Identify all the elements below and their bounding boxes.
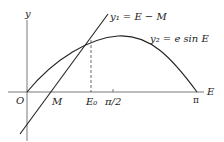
e0-tick-label: E₀ — [85, 96, 97, 107]
y-axis-label: y — [24, 8, 31, 19]
sine-curve — [27, 36, 197, 92]
curve-y2-label: y₂ = e sin E — [149, 33, 209, 44]
half-pi-tick-label: π/2 — [104, 96, 121, 107]
line-y1-label: y₁ = E − M — [109, 11, 167, 22]
x-axis-label: E — [206, 86, 215, 97]
kepler-diagram: y E O y₁ = E − M y₂ = e sin E M E₀ π/2 π — [0, 0, 224, 142]
origin-label: O — [16, 95, 24, 106]
line-y1 — [20, 14, 108, 134]
pi-tick-label: π — [193, 95, 199, 105]
m-tick-label: M — [51, 96, 63, 107]
